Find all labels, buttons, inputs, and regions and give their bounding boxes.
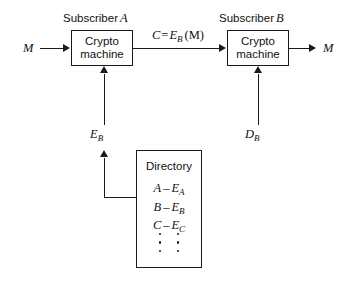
ciphertext-e: E xyxy=(169,28,177,42)
crypto-machine-b-label: Crypto machine xyxy=(228,35,288,61)
input-arrow-head xyxy=(63,44,70,52)
directory-entry-subscriber: A xyxy=(153,181,161,195)
directory-entry-key: E xyxy=(171,218,179,232)
directory-ellipsis-column xyxy=(159,233,161,252)
directory-entry-key: E xyxy=(171,181,179,195)
directory-ellipsis-column xyxy=(177,233,179,252)
output-arrow-head xyxy=(309,44,316,52)
crypto-machine-a-label: Crypto machine xyxy=(72,35,132,61)
channel-arrow-line xyxy=(133,48,221,49)
crypto-machine-b-line1: Crypto xyxy=(228,35,288,48)
directory-entry-dash: – xyxy=(161,200,171,214)
ciphertext-e-subscript: B xyxy=(177,34,183,44)
subscriber-a-caption-text: Subscriber xyxy=(63,12,118,24)
subscriber-a-caption-id: A xyxy=(118,11,128,25)
encrypt-key-label: EB xyxy=(90,127,103,143)
ellipsis-dot xyxy=(177,233,179,235)
crypto-machine-b-line2: machine xyxy=(228,48,288,61)
ellipsis-dot xyxy=(177,241,179,243)
subscriber-b-caption: SubscriberB xyxy=(219,11,284,26)
decrypt-key-line xyxy=(258,74,259,125)
crypto-machine-a-box: Crypto machine xyxy=(71,30,133,66)
ciphertext-argument: (M) xyxy=(183,28,204,42)
subscriber-b-caption-id: B xyxy=(274,11,284,25)
ellipsis-dot xyxy=(159,241,161,243)
encrypt-key-arrow-head-upper xyxy=(100,66,108,73)
channel-arrow-head xyxy=(219,44,226,52)
directory-entry-key: E xyxy=(171,200,179,214)
crypto-directory-diagram: SubscriberA SubscriberB Crypto machine C… xyxy=(0,0,345,281)
directory-entry: A–EA xyxy=(137,181,201,200)
directory-title: Directory xyxy=(137,160,201,172)
crypto-machine-b-box: Crypto machine xyxy=(227,30,289,66)
decrypt-key-label: DB xyxy=(245,127,260,143)
output-arrow-line xyxy=(289,48,311,49)
encrypt-key-line-upper xyxy=(104,74,105,125)
crypto-machine-a-line2: machine xyxy=(72,48,132,61)
ellipsis-dot xyxy=(159,250,161,252)
directory-box: Directory A–EA B–EB C–EC xyxy=(136,150,202,268)
subscriber-a-caption: SubscriberA xyxy=(63,11,128,26)
directory-ellipsis xyxy=(137,233,201,252)
input-arrow-line xyxy=(40,48,65,49)
ellipsis-dot xyxy=(159,233,161,235)
directory-entry-key-subscript: B xyxy=(179,205,185,215)
directory-entry: B–EB xyxy=(137,200,201,219)
directory-entry-subscriber: B xyxy=(153,200,161,214)
encrypt-key-line-lower xyxy=(104,158,105,198)
directory-to-key-connector xyxy=(104,197,137,198)
directory-entry-dash: – xyxy=(161,218,171,232)
encrypt-key-arrow-head-lower xyxy=(100,150,108,157)
plaintext-output-label: M xyxy=(323,41,333,56)
encrypt-key-subscript: B xyxy=(98,133,104,143)
decrypt-key-arrow-head xyxy=(254,66,262,73)
crypto-machine-a-line1: Crypto xyxy=(72,35,132,48)
directory-entry-subscriber: C xyxy=(153,218,161,232)
directory-entry-key-subscript: A xyxy=(179,187,185,197)
decrypt-key-subscript: B xyxy=(254,133,260,143)
subscriber-b-caption-text: Subscriber xyxy=(219,12,274,24)
ellipsis-dot xyxy=(177,250,179,252)
directory-entry-dash: – xyxy=(161,181,171,195)
plaintext-input-label: M xyxy=(23,41,33,56)
directory-entry-list: A–EA B–EB C–EC xyxy=(137,181,201,237)
encrypt-key-letter: E xyxy=(90,127,98,141)
decrypt-key-letter: D xyxy=(245,127,254,141)
ciphertext-label: C=EB(M) xyxy=(152,28,204,44)
